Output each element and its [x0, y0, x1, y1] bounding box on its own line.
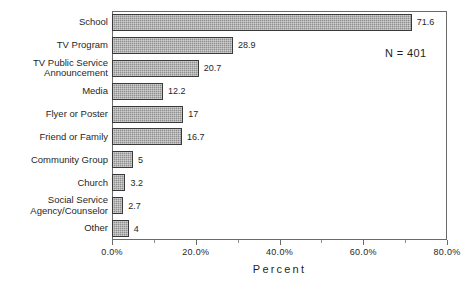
x-axis-tick — [196, 240, 197, 245]
x-axis-tick — [447, 240, 448, 245]
category-label: Community Group — [0, 155, 108, 166]
category-label: Other — [0, 223, 108, 234]
bar — [112, 106, 183, 123]
sample-size-annotation: N = 401 — [385, 47, 427, 59]
category-label: TV Program — [0, 40, 108, 51]
x-axis-minor-tick — [405, 240, 406, 243]
x-axis-tick-label: 40.0% — [266, 247, 293, 257]
x-axis-tick — [280, 240, 281, 245]
category-axis-labels: SchoolTV ProgramTV Public Service Announ… — [0, 11, 108, 240]
bar — [112, 151, 133, 168]
bar-value-label: 17 — [188, 110, 198, 119]
category-label: School — [0, 17, 108, 28]
x-axis-tick — [112, 240, 113, 245]
bar — [112, 60, 199, 77]
bar — [112, 197, 123, 214]
bar-chart: SchoolTV ProgramTV Public Service Announ… — [0, 0, 472, 285]
bar — [112, 14, 412, 31]
bar-value-label: 5 — [138, 156, 143, 165]
bar-value-label: 20.7 — [204, 64, 222, 73]
x-axis-minor-tick — [238, 240, 239, 243]
bar-value-label: 16.7 — [187, 133, 205, 142]
x-axis-minor-tick — [321, 240, 322, 243]
x-axis-tick-label: 80.0% — [433, 247, 460, 257]
bar — [112, 37, 233, 54]
bar — [112, 128, 182, 145]
bar — [112, 220, 129, 237]
x-axis-minor-tick — [154, 240, 155, 243]
bar — [112, 174, 125, 191]
bar-value-label: 28.9 — [238, 41, 256, 50]
bar-value-label: 3.2 — [130, 179, 143, 188]
category-label: Flyer or Poster — [0, 109, 108, 120]
bar — [112, 83, 163, 100]
bar-value-label: 4 — [134, 225, 139, 234]
x-axis-tick-label: 20.0% — [182, 247, 209, 257]
bar-value-label: 12.2 — [168, 87, 186, 96]
category-label: Friend or Family — [0, 132, 108, 143]
bar-value-label: 2.7 — [128, 202, 141, 211]
category-label: Social Service Agency/Counselor — [0, 195, 108, 216]
x-axis-tick — [363, 240, 364, 245]
category-label: Media — [0, 86, 108, 97]
category-label: TV Public Service Announcement — [0, 58, 108, 79]
category-label: Church — [0, 178, 108, 189]
bar-value-label: 71.6 — [417, 18, 435, 27]
bars-layer: 71.628.920.712.21716.753.22.74 — [112, 11, 447, 240]
x-axis-tick-label: 0.0% — [101, 247, 123, 257]
x-axis-tick-label: 60.0% — [350, 247, 377, 257]
x-axis-title: Percent — [112, 263, 447, 275]
